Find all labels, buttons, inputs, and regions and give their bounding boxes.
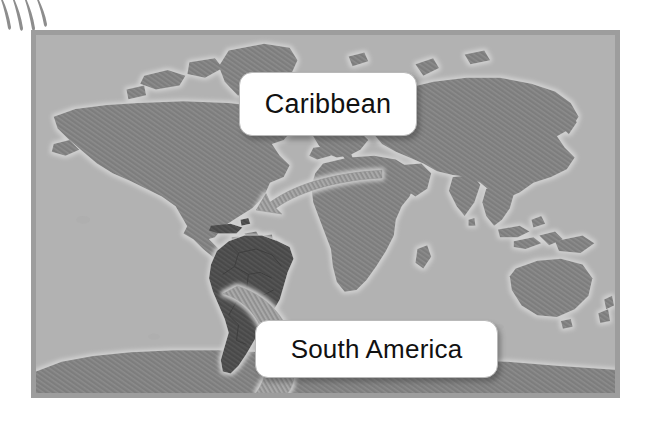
callout-south-america-label: South America xyxy=(291,336,463,362)
claw-stroke-3 xyxy=(24,0,35,31)
claw-stroke-4 xyxy=(36,0,47,27)
callout-caribbean-label: Caribbean xyxy=(265,91,391,118)
callout-caribbean[interactable]: Caribbean xyxy=(239,72,417,136)
claw-stroke-1 xyxy=(0,0,11,30)
claw-stroke-2 xyxy=(12,0,23,31)
callout-south-america[interactable]: South America xyxy=(255,320,498,378)
